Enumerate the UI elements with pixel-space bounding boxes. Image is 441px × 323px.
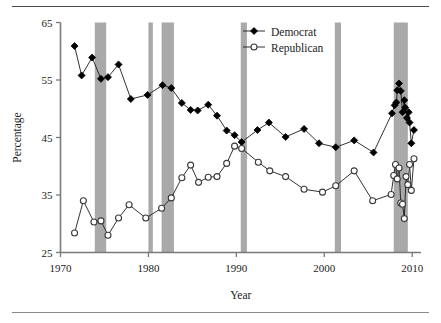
data-point-circle bbox=[351, 168, 357, 174]
data-point-circle bbox=[283, 174, 289, 180]
data-point-circle bbox=[394, 176, 400, 182]
data-point-diamond bbox=[410, 127, 417, 134]
x-tick-label: 1990 bbox=[225, 262, 248, 274]
data-point-diamond bbox=[194, 107, 201, 114]
data-point-diamond bbox=[408, 140, 415, 147]
data-point-circle bbox=[333, 183, 339, 189]
recession-band-3 bbox=[241, 23, 247, 253]
legend-label-democrat: Democrat bbox=[271, 26, 317, 38]
data-point-circle bbox=[255, 159, 261, 165]
data-point-circle bbox=[168, 195, 174, 201]
figure-bottom-rule bbox=[12, 312, 429, 313]
data-point-circle bbox=[91, 219, 97, 225]
x-axis-title: Year bbox=[230, 289, 251, 301]
data-point-circle bbox=[320, 189, 326, 195]
data-point-circle bbox=[405, 182, 411, 188]
data-point-circle bbox=[407, 162, 413, 168]
data-point-circle bbox=[396, 165, 402, 171]
data-point-circle bbox=[239, 145, 245, 151]
data-point-circle bbox=[224, 160, 230, 166]
data-point-diamond bbox=[223, 127, 230, 134]
legend-marker-diamond bbox=[251, 28, 258, 35]
data-point-circle bbox=[188, 162, 194, 168]
data-point-circle bbox=[370, 198, 376, 204]
data-point-circle bbox=[401, 216, 407, 222]
recession-band-4 bbox=[335, 23, 341, 253]
data-point-circle bbox=[214, 174, 220, 180]
y-tick-label: 65 bbox=[42, 17, 54, 29]
data-point-circle bbox=[72, 230, 78, 236]
data-point-circle bbox=[179, 175, 185, 181]
data-point-circle bbox=[116, 215, 122, 221]
data-point-diamond bbox=[127, 95, 134, 102]
data-point-diamond bbox=[254, 127, 261, 134]
data-point-circle bbox=[411, 156, 417, 162]
data-point-circle bbox=[205, 174, 211, 180]
data-point-circle bbox=[232, 143, 238, 149]
data-point-circle bbox=[143, 215, 149, 221]
data-point-circle bbox=[126, 202, 132, 208]
x-tick-label: 1970 bbox=[50, 262, 73, 274]
data-point-circle bbox=[408, 187, 414, 193]
recession-band-2 bbox=[162, 23, 174, 253]
data-point-circle bbox=[403, 174, 409, 180]
data-point-circle bbox=[388, 191, 394, 197]
y-tick-label: 25 bbox=[42, 247, 54, 259]
data-point-diamond bbox=[89, 54, 96, 61]
legend-label-republican: Republican bbox=[271, 42, 324, 55]
data-point-circle bbox=[196, 179, 202, 185]
y-tick-label: 45 bbox=[42, 132, 54, 144]
y-tick-label: 35 bbox=[42, 189, 54, 201]
data-point-circle bbox=[400, 201, 406, 207]
y-tick-label: 55 bbox=[42, 74, 54, 86]
x-tick-label: 2000 bbox=[313, 262, 336, 274]
y-axis-title: Percentage bbox=[11, 112, 24, 162]
x-tick-label: 2010 bbox=[401, 262, 424, 274]
recession-bands-layer bbox=[95, 23, 408, 253]
data-point-circle bbox=[105, 232, 111, 238]
data-point-circle bbox=[98, 218, 104, 224]
data-point-circle bbox=[80, 198, 86, 204]
legend-layer: DemocratRepublican bbox=[243, 26, 324, 55]
data-point-circle bbox=[267, 168, 273, 174]
data-point-circle bbox=[159, 205, 165, 211]
legend-marker-circle bbox=[251, 44, 257, 50]
figure-top-rule bbox=[12, 6, 429, 7]
x-tick-label: 1980 bbox=[137, 262, 160, 274]
figure-container: 253545556519701980199020002010 DemocratR… bbox=[0, 0, 441, 323]
data-point-circle bbox=[301, 186, 307, 192]
data-point-diamond bbox=[370, 149, 377, 156]
line-chart: 253545556519701980199020002010 DemocratR… bbox=[0, 0, 441, 323]
data-point-diamond bbox=[71, 43, 78, 50]
data-point-diamond bbox=[351, 137, 358, 144]
data-point-diamond bbox=[78, 72, 85, 79]
